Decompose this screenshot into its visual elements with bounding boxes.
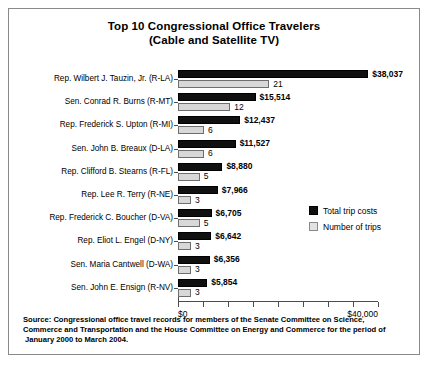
legend-item-number-of-trips: Number of trips (309, 220, 381, 233)
bar-number-of-trips (178, 266, 191, 274)
bar-number-of-trips (178, 126, 204, 134)
bar-value-cost: $11,527 (240, 139, 270, 148)
category-label: Rep. Lee R. Terry (R-NE) (81, 190, 173, 200)
bar-total-trip-costs (178, 140, 236, 148)
legend-label-cost: Total trip costs (323, 206, 377, 216)
bar-value-trips: 5 (204, 219, 209, 228)
chart-legend: Total trip costs Number of trips (309, 204, 381, 236)
legend-swatch-trips-icon (309, 222, 318, 231)
bar-number-of-trips (178, 173, 200, 181)
bar-total-trip-costs (178, 70, 368, 78)
bar-number-of-trips (178, 196, 191, 204)
category-label: Sen. John B. Breaux (D-LA) (72, 144, 173, 154)
category-label: Sen. John E. Ensign (R-NV) (71, 283, 173, 293)
chart-figure: Top 10 Congressional Office Travelers (C… (8, 8, 420, 355)
bar-value-cost: $5,854 (211, 278, 237, 287)
bar-value-cost: $8,880 (226, 162, 252, 171)
category-label: Sen. Conrad R. Burns (R-MT) (65, 97, 173, 107)
bar-value-cost: $7,966 (222, 186, 248, 195)
category-label: Rep. Frederick S. Upton (R-MI) (60, 120, 173, 130)
category-label: Rep. Eliot L. Engel (D-NY) (77, 236, 173, 246)
bar-number-of-trips (178, 289, 191, 297)
bar-number-of-trips (178, 219, 200, 227)
x-axis-tick (303, 302, 304, 307)
source-line-2: Commerce and Transportation and the Hous… (23, 325, 411, 335)
bar-value-cost: $12,437 (244, 116, 275, 125)
category-label: Rep. Wilbert J. Tauzin, Jr. (R-LA) (54, 74, 173, 84)
category-label: Rep. Clifford B. Stearns (R-FL) (61, 167, 173, 177)
bar-number-of-trips (178, 80, 269, 88)
bar-value-trips: 3 (195, 288, 200, 297)
source-line-1: Source: Congressional office travel reco… (23, 315, 411, 325)
x-axis-tick (278, 302, 279, 307)
source-note: Source: Congressional office travel reco… (23, 315, 411, 346)
bar-number-of-trips (178, 242, 191, 250)
legend-label-trips: Number of trips (323, 222, 381, 232)
bar-value-trips: 12 (234, 103, 243, 112)
chart-title-line-1: Top 10 Congressional Office Travelers (9, 19, 419, 33)
bar-number-of-trips (178, 103, 230, 111)
chart-title-line-2: (Cable and Satellite TV) (9, 33, 419, 47)
source-line-3: January 2000 to March 2004. (23, 335, 411, 345)
bar-total-trip-costs (178, 232, 211, 240)
x-axis-tick (203, 302, 204, 307)
bar-number-of-trips (178, 150, 204, 158)
bar-value-cost: $6,356 (214, 255, 240, 264)
bar-total-trip-costs (178, 163, 222, 171)
x-axis-tick (353, 302, 354, 307)
x-axis-tick (253, 302, 254, 307)
bar-total-trip-costs (178, 209, 212, 217)
bar-value-trips: 3 (195, 196, 200, 205)
plot-area: Rep. Wilbert J. Tauzin, Jr. (R-LA)$38,03… (178, 63, 378, 301)
bar-value-trips: 3 (195, 265, 200, 274)
bar-value-cost: $38,037 (372, 70, 403, 79)
bar-total-trip-costs (178, 256, 210, 264)
legend-item-total-trip-costs: Total trip costs (309, 204, 381, 217)
x-axis-tick (378, 302, 379, 307)
bar-total-trip-costs (178, 186, 218, 194)
category-label: Sen. Maria Cantwell (D-WA) (70, 260, 173, 270)
bar-value-cost: $6,642 (215, 232, 241, 241)
x-axis-tick (328, 302, 329, 307)
bar-value-trips: 21 (273, 80, 282, 89)
bar-value-trips: 6 (208, 149, 213, 158)
bar-total-trip-costs (178, 279, 207, 287)
x-axis-tick (178, 302, 179, 307)
legend-swatch-cost-icon (309, 206, 318, 215)
bar-value-cost: $15,514 (260, 93, 291, 102)
category-label: Rep. Frederick C. Boucher (D-VA) (49, 213, 173, 223)
bar-value-trips: 3 (195, 242, 200, 251)
chart-title: Top 10 Congressional Office Travelers (C… (9, 19, 419, 47)
bar-value-cost: $6,705 (216, 209, 242, 218)
x-axis-tick (228, 302, 229, 307)
bar-total-trip-costs (178, 116, 240, 124)
bar-value-trips: 5 (204, 172, 209, 181)
bar-total-trip-costs (178, 93, 256, 101)
bar-value-trips: 6 (208, 126, 213, 135)
